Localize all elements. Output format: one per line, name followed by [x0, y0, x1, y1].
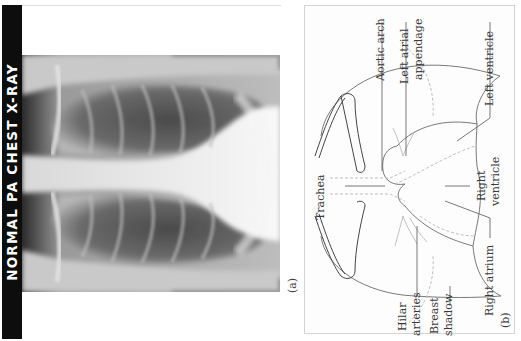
- panel-b-diagram: Aortic arch Left atrial appendage Left v…: [304, 5, 515, 334]
- label-right-atrium: Right atrium: [484, 245, 496, 316]
- label-hilar-2: arteries: [411, 292, 423, 336]
- label-aortic-arch: Aortic arch: [375, 19, 387, 81]
- label-left-ventricle: Left ventricle: [484, 31, 496, 106]
- chest-xray-image: [22, 55, 280, 292]
- label-right-ventricle-2: ventricle: [490, 157, 502, 206]
- panel-a-label: (a): [286, 278, 299, 293]
- label-left-atrial-1: Left atrial: [399, 28, 411, 84]
- figure-title: NORMAL PA CHEST X-RAY: [4, 63, 20, 281]
- label-breast-2: shadow: [443, 294, 455, 336]
- label-breast-1: Breast: [429, 298, 441, 334]
- figure-title-bar: NORMAL PA CHEST X-RAY: [2, 5, 22, 339]
- label-trachea: Trachea: [315, 175, 327, 220]
- label-left-atrial-2: appendage: [413, 19, 425, 80]
- label-right-ventricle-1: Right: [476, 171, 488, 201]
- label-hilar-1: Hilar: [397, 303, 409, 331]
- panel-b-label: (b): [500, 312, 512, 328]
